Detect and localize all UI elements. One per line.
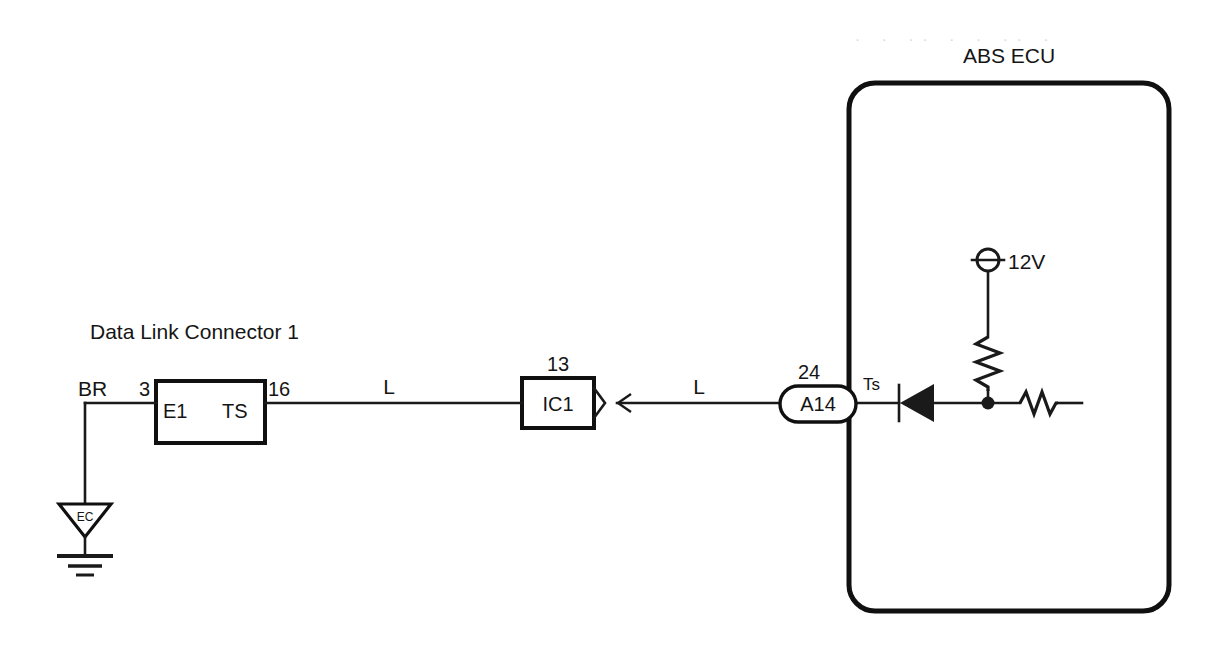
vertical-resistor: [976, 337, 1000, 391]
circuit-canvas: 12V A14 24 Ts EC ABS ECU Data Link Conne…: [0, 0, 1211, 653]
ic1-pin-number: 13: [547, 353, 569, 375]
pin-ts-name: TS: [222, 400, 248, 422]
diode-anode-triangle: [900, 384, 934, 422]
abs-ecu-box: [849, 83, 1169, 611]
wiring-diagram: · · ·· · · ·· ·: [0, 0, 1211, 653]
ic1-label: IC1: [542, 393, 573, 415]
ecu-title: ABS ECU: [963, 44, 1055, 67]
wire-color-l-left-label: L: [383, 375, 395, 398]
junction-dot: [982, 397, 995, 410]
pin-16-number: 16: [268, 378, 290, 400]
wire-color-l-right-label: L: [693, 375, 705, 398]
supply-voltage-label: 12V: [1008, 250, 1045, 273]
ts-terminal-label: Ts: [863, 375, 880, 394]
wire-color-br-label: BR: [78, 377, 107, 400]
a14-connector-label: A14: [800, 393, 836, 415]
pin-e1-name: E1: [163, 400, 187, 422]
horizontal-resistor: [1020, 392, 1058, 414]
a14-pin-number: 24: [798, 361, 820, 383]
ground-code-label: EC: [77, 510, 94, 524]
pin-3-number: 3: [139, 378, 150, 400]
connector-title: Data Link Connector 1: [90, 320, 299, 343]
